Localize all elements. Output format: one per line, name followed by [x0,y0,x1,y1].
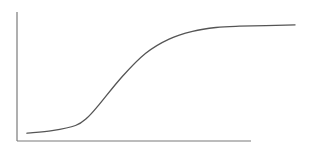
sigmoid-chart [0,0,315,152]
sigmoid-curve-line [26,25,295,133]
